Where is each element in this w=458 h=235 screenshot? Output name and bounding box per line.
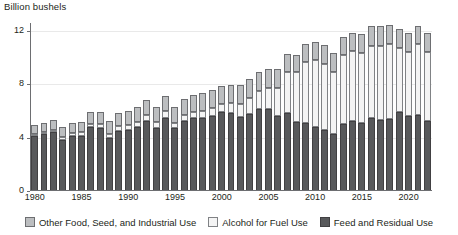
bar-segment bbox=[237, 117, 244, 191]
bar-segment bbox=[115, 131, 122, 191]
bar-segment bbox=[386, 119, 393, 191]
legend-swatch-icon bbox=[320, 217, 330, 227]
y-axis-tick-labels: 04812 bbox=[0, 23, 24, 191]
bar-segment bbox=[265, 109, 272, 191]
bar bbox=[237, 85, 244, 191]
bar-segment bbox=[330, 72, 337, 134]
bar-segment bbox=[396, 48, 403, 113]
bar-segment bbox=[87, 112, 94, 124]
bar-segment bbox=[237, 85, 244, 104]
bar-segment bbox=[274, 69, 281, 88]
bar-segment bbox=[59, 140, 66, 191]
bar-segment bbox=[143, 100, 150, 115]
legend-item[interactable]: Other Food, Seed, and Industrial Use bbox=[25, 217, 196, 228]
bar-segment bbox=[50, 132, 57, 191]
bar-segment bbox=[171, 107, 178, 123]
bar-segment bbox=[125, 111, 132, 125]
bar bbox=[293, 55, 300, 191]
bar-segment bbox=[209, 116, 216, 191]
bar-segment bbox=[209, 108, 216, 116]
bar-segment bbox=[330, 53, 337, 72]
bar-segment bbox=[321, 130, 328, 191]
bar-segment bbox=[256, 109, 263, 191]
bar bbox=[424, 33, 431, 191]
bar bbox=[41, 123, 48, 191]
bar-segment bbox=[349, 33, 356, 52]
legend-swatch-icon bbox=[25, 217, 35, 227]
x-axis-tick-label: 1995 bbox=[165, 193, 185, 202]
bar-segment bbox=[340, 55, 347, 123]
x-axis-line bbox=[30, 190, 432, 191]
bar-segment bbox=[424, 121, 431, 191]
bar-segment bbox=[171, 128, 178, 191]
bar bbox=[218, 86, 225, 191]
bar-segment bbox=[377, 120, 384, 191]
bar-segment bbox=[312, 127, 319, 191]
bar-segment bbox=[97, 112, 104, 124]
bar-segment bbox=[153, 107, 160, 122]
bar-segment bbox=[162, 111, 169, 118]
y-axis-tick bbox=[27, 31, 30, 32]
bar bbox=[228, 85, 235, 191]
y-axis-title: Billion bushels bbox=[4, 1, 66, 12]
bar-segment bbox=[134, 107, 141, 121]
bar-segment bbox=[368, 46, 375, 118]
bar-segment bbox=[274, 88, 281, 116]
bar bbox=[386, 25, 393, 191]
bar-segment bbox=[218, 86, 225, 104]
bar-segment bbox=[368, 26, 375, 45]
bar-segment bbox=[377, 46, 384, 121]
x-axis-tick-label: 2020 bbox=[399, 193, 419, 202]
bar-segment bbox=[265, 88, 272, 109]
bar-segment bbox=[31, 136, 38, 191]
bar-segment bbox=[78, 122, 85, 133]
legend-swatch-icon bbox=[208, 217, 218, 227]
bar bbox=[349, 33, 356, 191]
bar-segment bbox=[162, 118, 169, 191]
bar bbox=[153, 107, 160, 191]
bar bbox=[302, 44, 309, 191]
bar bbox=[368, 26, 375, 191]
bar bbox=[78, 122, 85, 191]
bar-segment bbox=[321, 45, 328, 64]
bar bbox=[190, 95, 197, 191]
bar-segment bbox=[349, 51, 356, 120]
bar-segment bbox=[237, 104, 244, 117]
bar bbox=[321, 45, 328, 191]
bar-segment bbox=[349, 121, 356, 191]
bar-segment bbox=[246, 114, 253, 191]
bar-segment bbox=[228, 113, 235, 191]
bar bbox=[181, 99, 188, 191]
bar bbox=[415, 26, 422, 191]
bar-segment bbox=[153, 128, 160, 191]
bar-segment bbox=[181, 99, 188, 115]
bar bbox=[405, 33, 412, 191]
bar-segment bbox=[199, 118, 206, 191]
bar-segment bbox=[405, 33, 412, 52]
bar bbox=[106, 121, 113, 191]
legend-item[interactable]: Feed and Residual Use bbox=[320, 217, 433, 228]
bar-segment bbox=[199, 93, 206, 110]
bar-segment bbox=[265, 69, 272, 88]
y-axis-tick-label: 12 bbox=[6, 26, 24, 35]
bar-segment bbox=[415, 115, 422, 191]
bar-segment bbox=[424, 52, 431, 121]
bar-segment bbox=[386, 44, 393, 119]
bar-segment bbox=[162, 96, 169, 112]
bar-segment bbox=[209, 90, 216, 108]
bar-segment bbox=[41, 134, 48, 191]
bar-segment bbox=[78, 136, 85, 191]
bar-segment bbox=[199, 111, 206, 118]
bar-segment bbox=[143, 121, 150, 191]
bar-segment bbox=[293, 122, 300, 191]
bar bbox=[358, 34, 365, 191]
bar-segment bbox=[415, 44, 422, 115]
y-axis-tick-label: 8 bbox=[6, 79, 24, 88]
bar-segment bbox=[405, 116, 412, 191]
bar bbox=[115, 113, 122, 191]
legend-item[interactable]: Alcohol for Fuel Use bbox=[208, 217, 308, 228]
bar-segment bbox=[340, 124, 347, 191]
x-axis-tick-label: 2015 bbox=[352, 193, 372, 202]
x-axis-tick-label: 2005 bbox=[258, 193, 278, 202]
bar-segment bbox=[246, 98, 253, 114]
